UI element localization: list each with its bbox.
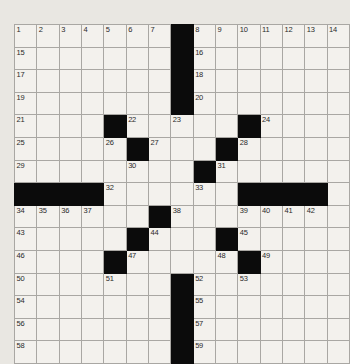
- crossword-cell[interactable]: [81, 228, 103, 251]
- crossword-cell[interactable]: 24: [260, 115, 282, 138]
- crossword-cell[interactable]: 29: [15, 160, 37, 183]
- crossword-cell[interactable]: [126, 318, 148, 341]
- crossword-cell[interactable]: [37, 115, 59, 138]
- crossword-cell[interactable]: [282, 47, 304, 70]
- crossword-cell[interactable]: [59, 273, 81, 296]
- crossword-cell[interactable]: [126, 92, 148, 115]
- crossword-cell[interactable]: [260, 47, 282, 70]
- crossword-cell[interactable]: 32: [104, 183, 126, 206]
- crossword-cell[interactable]: 46: [15, 250, 37, 273]
- crossword-cell[interactable]: [260, 318, 282, 341]
- crossword-cell[interactable]: [59, 47, 81, 70]
- crossword-cell[interactable]: 54: [15, 296, 37, 319]
- crossword-cell[interactable]: 28: [238, 137, 260, 160]
- crossword-cell[interactable]: 2: [37, 25, 59, 48]
- crossword-cell[interactable]: 45: [238, 228, 260, 251]
- crossword-cell[interactable]: [238, 92, 260, 115]
- crossword-cell[interactable]: [37, 318, 59, 341]
- crossword-cell[interactable]: 22: [126, 115, 148, 138]
- crossword-cell[interactable]: [81, 296, 103, 319]
- crossword-cell[interactable]: 15: [15, 47, 37, 70]
- crossword-cell[interactable]: [193, 250, 215, 273]
- crossword-cell[interactable]: [327, 47, 349, 70]
- crossword-cell[interactable]: 16: [193, 47, 215, 70]
- crossword-cell[interactable]: [282, 318, 304, 341]
- crossword-cell[interactable]: 49: [260, 250, 282, 273]
- crossword-cell[interactable]: [148, 183, 170, 206]
- crossword-cell[interactable]: [104, 296, 126, 319]
- crossword-cell[interactable]: 50: [15, 273, 37, 296]
- crossword-cell[interactable]: 1: [15, 25, 37, 48]
- crossword-cell[interactable]: [59, 341, 81, 364]
- crossword-cell[interactable]: [282, 341, 304, 364]
- crossword-cell[interactable]: [148, 341, 170, 364]
- crossword-cell[interactable]: [327, 160, 349, 183]
- crossword-cell[interactable]: 43: [15, 228, 37, 251]
- crossword-cell[interactable]: [193, 137, 215, 160]
- crossword-cell[interactable]: [126, 47, 148, 70]
- crossword-cell[interactable]: [215, 92, 237, 115]
- crossword-cell[interactable]: 57: [193, 318, 215, 341]
- crossword-cell[interactable]: 8: [193, 25, 215, 48]
- crossword-cell[interactable]: [148, 115, 170, 138]
- crossword-cell[interactable]: 17: [15, 70, 37, 93]
- crossword-cell[interactable]: 18: [193, 70, 215, 93]
- crossword-cell[interactable]: [282, 250, 304, 273]
- crossword-cell[interactable]: [37, 160, 59, 183]
- crossword-grid[interactable]: 1234567891011121314151617181920212223242…: [14, 24, 350, 364]
- crossword-cell[interactable]: 37: [81, 205, 103, 228]
- crossword-cell[interactable]: 53: [238, 273, 260, 296]
- crossword-cell[interactable]: [260, 70, 282, 93]
- crossword-cell[interactable]: [282, 92, 304, 115]
- crossword-cell[interactable]: [305, 70, 327, 93]
- crossword-cell[interactable]: [148, 70, 170, 93]
- crossword-cell[interactable]: [37, 137, 59, 160]
- crossword-cell[interactable]: 26: [104, 137, 126, 160]
- crossword-cell[interactable]: [238, 296, 260, 319]
- crossword-cell[interactable]: [327, 183, 349, 206]
- crossword-cell[interactable]: [215, 273, 237, 296]
- crossword-cell[interactable]: [238, 160, 260, 183]
- crossword-cell[interactable]: 30: [126, 160, 148, 183]
- crossword-cell[interactable]: [305, 341, 327, 364]
- crossword-cell[interactable]: 38: [171, 205, 193, 228]
- crossword-cell[interactable]: [305, 296, 327, 319]
- crossword-cell[interactable]: 34: [15, 205, 37, 228]
- crossword-cell[interactable]: [215, 318, 237, 341]
- crossword-cell[interactable]: [37, 228, 59, 251]
- crossword-cell[interactable]: [260, 296, 282, 319]
- crossword-cell[interactable]: 27: [148, 137, 170, 160]
- crossword-cell[interactable]: [59, 318, 81, 341]
- crossword-cell[interactable]: [104, 70, 126, 93]
- crossword-cell[interactable]: [126, 70, 148, 93]
- crossword-cell[interactable]: [238, 47, 260, 70]
- crossword-cell[interactable]: 58: [15, 341, 37, 364]
- crossword-cell[interactable]: [126, 296, 148, 319]
- crossword-cell[interactable]: [37, 341, 59, 364]
- crossword-cell[interactable]: [104, 47, 126, 70]
- crossword-cell[interactable]: [171, 228, 193, 251]
- crossword-cell[interactable]: [193, 115, 215, 138]
- crossword-cell[interactable]: 42: [305, 205, 327, 228]
- crossword-cell[interactable]: 36: [59, 205, 81, 228]
- crossword-cell[interactable]: 56: [15, 318, 37, 341]
- crossword-cell[interactable]: [327, 273, 349, 296]
- crossword-cell[interactable]: [171, 137, 193, 160]
- crossword-cell[interactable]: [104, 160, 126, 183]
- crossword-cell[interactable]: [148, 318, 170, 341]
- crossword-cell[interactable]: [37, 92, 59, 115]
- crossword-cell[interactable]: [215, 296, 237, 319]
- crossword-cell[interactable]: 59: [193, 341, 215, 364]
- crossword-cell[interactable]: [104, 92, 126, 115]
- crossword-cell[interactable]: [126, 273, 148, 296]
- crossword-cell[interactable]: 35: [37, 205, 59, 228]
- crossword-cell[interactable]: [282, 273, 304, 296]
- crossword-cell[interactable]: [282, 70, 304, 93]
- crossword-cell[interactable]: 4: [81, 25, 103, 48]
- crossword-cell[interactable]: [148, 250, 170, 273]
- crossword-cell[interactable]: [305, 273, 327, 296]
- crossword-cell[interactable]: [282, 137, 304, 160]
- crossword-cell[interactable]: [305, 92, 327, 115]
- crossword-cell[interactable]: 25: [15, 137, 37, 160]
- crossword-cell[interactable]: [282, 115, 304, 138]
